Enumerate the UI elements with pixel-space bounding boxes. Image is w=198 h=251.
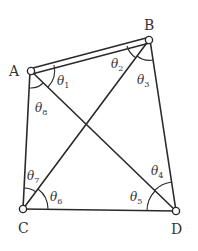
vertex-label-b: B bbox=[144, 17, 154, 33]
angle-label-theta2: θ2 bbox=[111, 57, 123, 73]
angle-arc-theta8 bbox=[30, 83, 43, 88]
vertex-label-c: C bbox=[18, 220, 29, 236]
angle-label-theta8: θ8 bbox=[35, 101, 47, 117]
link-ab bbox=[31, 38, 150, 75]
angle-arc-theta6 bbox=[38, 189, 48, 209]
joint-a bbox=[27, 67, 34, 74]
angle-arc-theta7 bbox=[24, 188, 36, 192]
link-bd bbox=[150, 40, 176, 211]
joint-d bbox=[172, 207, 179, 214]
angle-arc-theta5 bbox=[147, 191, 155, 211]
joint-c bbox=[19, 205, 26, 212]
angle-label-theta7: θ7 bbox=[27, 169, 39, 185]
angle-arc-theta4 bbox=[155, 182, 172, 190]
angle-label-theta3: θ3 bbox=[137, 73, 149, 89]
angle-label-theta1: θ1 bbox=[57, 74, 69, 90]
joint-b bbox=[145, 36, 152, 43]
vertex-label-a: A bbox=[8, 63, 20, 79]
vertex-label-d: D bbox=[171, 221, 182, 237]
angle-arc-theta3 bbox=[137, 56, 153, 60]
link-dc bbox=[23, 209, 176, 211]
angle-label-theta4: θ4 bbox=[151, 164, 163, 180]
angle-label-theta6: θ6 bbox=[50, 190, 62, 206]
linkage-diagram: A B C D θ1 θ2 θ3 θ4 θ5 θ6 θ7 θ8 bbox=[0, 0, 198, 251]
angle-label-theta5: θ5 bbox=[130, 190, 142, 206]
